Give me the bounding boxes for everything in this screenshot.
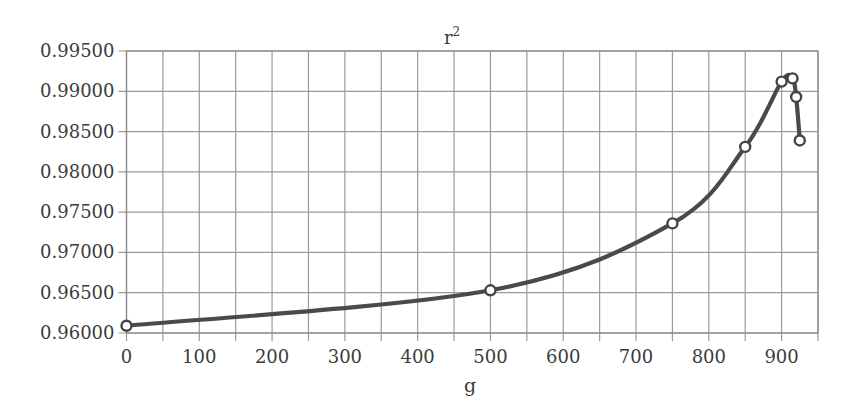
x-tick-label: 300 bbox=[328, 346, 362, 367]
y-tick-label: 0.98000 bbox=[40, 161, 114, 182]
x-tick-label: 500 bbox=[473, 346, 507, 367]
data-point-marker bbox=[485, 285, 495, 295]
x-tick-label: 800 bbox=[692, 346, 726, 367]
x-tick-label: 0 bbox=[121, 346, 132, 367]
y-tick-label: 0.96000 bbox=[40, 322, 114, 343]
y-tick-label: 0.96500 bbox=[40, 282, 114, 303]
x-tick-label: 400 bbox=[400, 346, 434, 367]
line-chart: r2 0.960000.965000.970000.975000.980000.… bbox=[0, 0, 856, 418]
x-tick-label: 700 bbox=[619, 346, 653, 367]
gridlines bbox=[119, 51, 819, 341]
y-tick-label: 0.98500 bbox=[40, 121, 114, 142]
y-tick-label: 0.99500 bbox=[40, 40, 114, 61]
data-point-marker bbox=[667, 218, 677, 228]
y-tick-label: 0.97000 bbox=[40, 241, 114, 262]
x-tick-label: 100 bbox=[182, 346, 216, 367]
y-axis-tick-labels: 0.960000.965000.970000.975000.980000.985… bbox=[40, 40, 114, 343]
y-tick-label: 0.99000 bbox=[40, 80, 114, 101]
x-axis-tick-labels: 0100200300400500600700800900 bbox=[121, 346, 799, 367]
x-axis-label: g bbox=[464, 374, 476, 396]
y-tick-label: 0.97500 bbox=[40, 201, 114, 222]
data-point-marker bbox=[740, 142, 750, 152]
data-point-marker bbox=[122, 321, 132, 331]
x-tick-label: 200 bbox=[255, 346, 289, 367]
series-line bbox=[127, 75, 800, 326]
chart-title-superscript: 2 bbox=[452, 25, 460, 39]
data-point-marker bbox=[777, 77, 787, 87]
chart-title: r2 bbox=[444, 25, 460, 48]
data-point-marker bbox=[788, 73, 798, 83]
x-tick-label: 900 bbox=[764, 346, 798, 367]
data-point-marker bbox=[791, 92, 801, 102]
x-tick-label: 600 bbox=[546, 346, 580, 367]
data-point-marker bbox=[795, 135, 805, 145]
